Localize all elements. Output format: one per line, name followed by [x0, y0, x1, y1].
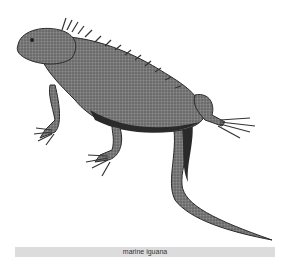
caption-text: marine iguana — [123, 247, 167, 257]
caption-bar: marine iguana — [15, 247, 275, 257]
marine-iguana-illustration — [0, 0, 292, 245]
